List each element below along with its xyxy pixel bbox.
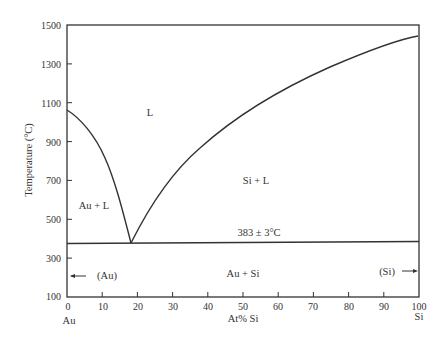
x-tick-70: 70 <box>308 301 318 312</box>
liquidus-si-side <box>131 36 418 243</box>
arrow-head-right-icon <box>413 269 418 273</box>
y-tick-labels: 1500 1300 1100 900 700 500 300 100 <box>41 20 61 302</box>
y-tick-500: 500 <box>46 214 61 225</box>
x-tick-40: 40 <box>203 301 213 312</box>
region-label-au-si: Au + Si <box>227 268 260 279</box>
plot-frame <box>67 25 419 297</box>
au-solid-label: (Au) <box>97 270 117 282</box>
y-tick-100: 100 <box>46 291 61 302</box>
x-tick-20: 20 <box>133 301 143 312</box>
x-tick-10: 10 <box>98 301 108 312</box>
arrow-head-left-icon <box>70 274 75 278</box>
y-axis-title: Temperature (°C) <box>23 123 35 197</box>
eutectic-line <box>67 242 419 244</box>
y-tick-700: 700 <box>46 175 61 186</box>
element-label-au: Au <box>63 315 77 326</box>
x-tick-60: 60 <box>273 301 283 312</box>
eutectic-temperature-label: 383 ± 3°C <box>237 227 280 238</box>
x-tick-labels: 0 10 20 30 40 50 60 70 80 90 100 <box>66 301 427 312</box>
au-solid-solution-marker: (Au) <box>70 270 117 282</box>
y-tick-900: 900 <box>46 137 61 148</box>
x-tick-0: 0 <box>66 301 71 312</box>
si-solid-solution-marker: (Si) <box>379 266 418 278</box>
x-tick-80: 80 <box>344 301 354 312</box>
x-tick-30: 30 <box>168 301 178 312</box>
liquidus-au-side <box>67 110 131 243</box>
region-label-liquid: L <box>147 107 153 118</box>
x-tick-90: 90 <box>379 301 389 312</box>
y-axis <box>67 64 72 258</box>
phase-diagram: 1500 1300 1100 900 700 500 300 100 0 10 … <box>0 0 447 341</box>
x-axis <box>102 292 384 297</box>
region-label-si-liquid: Si + L <box>243 175 269 186</box>
element-label-si: Si <box>415 311 424 322</box>
y-tick-1500: 1500 <box>41 20 61 31</box>
si-solid-label: (Si) <box>379 266 395 278</box>
x-tick-50: 50 <box>238 301 248 312</box>
y-tick-1100: 1100 <box>41 98 61 109</box>
region-label-au-liquid: Au + L <box>79 200 109 211</box>
x-axis-title: At% Si <box>228 313 259 324</box>
y-tick-1300: 1300 <box>41 59 61 70</box>
y-tick-300: 300 <box>46 253 61 264</box>
